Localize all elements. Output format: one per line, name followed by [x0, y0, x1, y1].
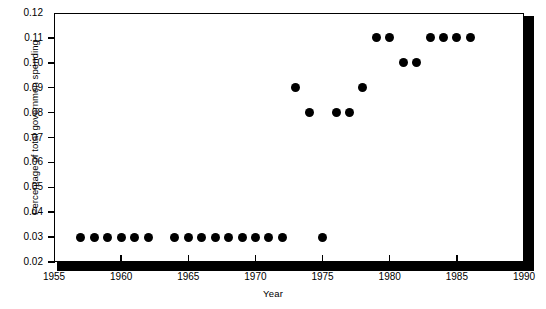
data-point	[224, 233, 233, 242]
y-axis-tick	[48, 37, 55, 39]
y-axis-tick	[48, 112, 55, 114]
x-axis-tick	[389, 255, 391, 263]
data-point	[345, 108, 354, 117]
data-point	[90, 233, 99, 242]
data-point	[211, 233, 220, 242]
y-axis-tick	[48, 236, 55, 238]
data-point	[144, 233, 153, 242]
scatter-chart-figure: Percentage of total governmen spending Y…	[0, 0, 546, 309]
y-axis-tick-label: 0.11	[24, 33, 43, 43]
axis-right-shadow	[524, 16, 534, 271]
y-axis-tick-label: 0.07	[24, 133, 43, 143]
y-axis-tick-label: 0.08	[24, 108, 43, 118]
plot-area	[54, 13, 524, 262]
x-axis-tick-label: 1970	[235, 272, 275, 282]
data-point	[184, 233, 193, 242]
data-point	[238, 233, 247, 242]
y-axis-tick	[48, 211, 55, 213]
data-point	[318, 233, 327, 242]
y-axis-tick	[48, 261, 55, 263]
y-axis-tick-label: 0.09	[24, 83, 43, 93]
x-axis-tick	[255, 255, 257, 263]
data-point	[278, 233, 287, 242]
y-axis-tick-label: 0.12	[24, 8, 43, 18]
data-point	[130, 233, 139, 242]
y-axis-tick	[48, 62, 55, 64]
data-point	[264, 233, 273, 242]
y-axis-tick-label: 0.05	[24, 182, 43, 192]
data-point	[76, 233, 85, 242]
y-axis-tick-label: 0.02	[24, 257, 43, 267]
y-axis-tick	[48, 87, 55, 89]
axis-bottom-shadow	[57, 262, 534, 271]
data-point	[117, 233, 126, 242]
y-axis-tick-label: 0.10	[24, 58, 43, 68]
x-axis-tick	[120, 255, 122, 263]
data-point	[251, 233, 260, 242]
y-axis-tick-label: 0.06	[24, 157, 43, 167]
y-axis-tick	[48, 162, 55, 164]
data-point	[197, 233, 206, 242]
x-axis-tick	[188, 255, 190, 263]
data-point	[426, 33, 435, 42]
x-axis-tick-label: 1990	[504, 272, 544, 282]
x-axis-tick-label: 1965	[168, 272, 208, 282]
x-axis-tick-label: 1975	[303, 272, 343, 282]
data-point	[399, 58, 408, 67]
x-axis-tick-label: 1955	[34, 272, 74, 282]
y-axis-tick-label: 0.03	[24, 232, 43, 242]
data-point	[170, 233, 179, 242]
y-axis-tick-label: 0.04	[24, 207, 43, 217]
data-point	[103, 233, 112, 242]
data-point	[305, 108, 314, 117]
x-axis-tick-label: 1960	[101, 272, 141, 282]
x-axis-tick	[322, 255, 324, 263]
y-axis-tick	[48, 187, 55, 189]
data-point	[332, 108, 341, 117]
y-axis-tick	[48, 137, 55, 139]
x-axis-tick-label: 1980	[370, 272, 410, 282]
x-axis-tick-label: 1985	[437, 272, 477, 282]
x-axis-title: Year	[0, 288, 546, 299]
x-axis-tick	[456, 255, 458, 263]
